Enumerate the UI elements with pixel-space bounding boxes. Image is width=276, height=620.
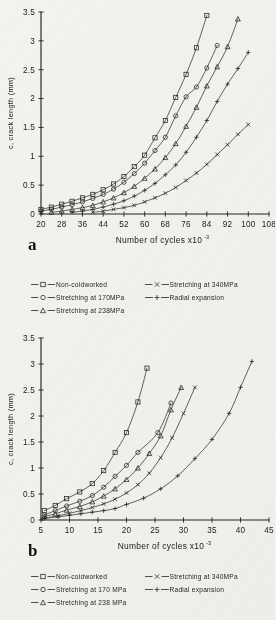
legend-item-stretching-170: Stretching at 170 MPa	[30, 583, 138, 596]
legend-a: Non-coldworked Stretching at 170MPa Stre…	[0, 278, 275, 317]
legend-marker-cross	[144, 279, 170, 290]
series-3	[49, 17, 240, 215]
x-tick-label: 84	[202, 220, 212, 229]
series-4	[70, 50, 251, 214]
y-tick-label: 1.5	[23, 123, 35, 132]
legend-marker-triangle	[30, 305, 56, 316]
legend-item-stretching-238: Stretching at 238MPa	[30, 304, 138, 317]
x-tick-label: 52	[119, 220, 129, 229]
data-point-marker	[236, 132, 240, 136]
x-tick-label: 10	[65, 526, 75, 535]
y-axis-title: c, crack length (mm)	[6, 77, 15, 149]
data-point-marker	[136, 483, 140, 487]
x-tick-label: 108	[262, 220, 275, 229]
data-point-marker	[111, 202, 115, 206]
legend-marker-plus	[144, 584, 170, 595]
legend-b: Non-coldworked Stretching at 170 MPa Str…	[0, 570, 275, 609]
legend-item-stretching-170: Stretching at 170MPa	[30, 291, 138, 304]
data-point-marker	[238, 385, 242, 389]
legend-item-radial-expansion: Radial expansion	[144, 583, 276, 596]
data-point-marker	[174, 186, 178, 190]
x-tick-label: 20	[122, 526, 132, 535]
legend-marker-triangle	[30, 597, 56, 608]
y-tick-label: 1	[30, 152, 35, 161]
data-point-marker	[163, 191, 167, 195]
data-point-marker	[250, 359, 254, 363]
data-point-marker	[184, 179, 188, 183]
panel-letter-a: a	[28, 236, 37, 253]
legend-label: Radial expansion	[170, 586, 225, 593]
y-tick-label: 0	[30, 210, 35, 219]
legend-label: Stretching at 238MPa	[56, 307, 124, 314]
x-tick-label: 44	[98, 220, 108, 229]
data-point-marker	[132, 194, 136, 198]
y-axis-title: c, crack length (mm)	[6, 393, 15, 465]
series-1	[39, 13, 209, 211]
data-point-marker	[159, 487, 163, 491]
svg-text:-3: -3	[204, 234, 209, 240]
series-2	[39, 43, 219, 213]
x-tick-label: 35	[207, 526, 217, 535]
x-tick-label: 68	[161, 220, 171, 229]
x-tick-label: 25	[150, 526, 160, 535]
y-tick-label: 3	[30, 37, 35, 46]
legend-item-stretching-340: Stretching at 340MPa	[144, 278, 276, 291]
legend-marker-cross	[144, 571, 170, 582]
data-point-marker	[159, 456, 163, 460]
data-point-marker	[143, 200, 147, 204]
chart-b-plot: 00.511.522.533.551015202530354045Number …	[0, 326, 275, 556]
y-tick-label: 2	[30, 94, 35, 103]
y-tick-label: 1	[30, 464, 35, 473]
data-point-marker	[122, 199, 126, 203]
legend-marker-square	[30, 279, 56, 290]
data-point-marker	[125, 491, 129, 495]
data-point-marker	[142, 188, 146, 192]
legend-item-stretching-238: Stretching at 238 MPa	[30, 596, 138, 609]
data-point-marker	[147, 471, 151, 475]
y-tick-label: 3.5	[23, 8, 35, 17]
data-point-marker	[141, 496, 145, 500]
data-point-marker	[215, 99, 219, 103]
legend-marker-plus	[144, 292, 170, 303]
y-tick-label: 0.5	[23, 181, 35, 190]
data-point-marker	[102, 502, 106, 506]
y-tick-label: 1.5	[23, 438, 35, 447]
legend-label: Radial expansion	[170, 294, 225, 301]
x-tick-label: 60	[140, 220, 150, 229]
series-5	[91, 123, 250, 215]
data-point-marker	[227, 411, 231, 415]
x-tick-label: 100	[241, 220, 256, 229]
x-tick-label: 28	[57, 220, 67, 229]
series-4	[43, 386, 197, 520]
chart-a-plot: 00.511.522.533.5202836445260687684921001…	[0, 0, 275, 250]
data-point-marker	[153, 196, 157, 200]
data-point-marker	[124, 502, 128, 506]
svg-text:-3: -3	[206, 540, 211, 546]
data-point-marker	[246, 123, 250, 127]
legend-label: Non-coldworked	[56, 281, 107, 288]
data-point-marker	[215, 153, 219, 157]
x-tick-label: 76	[181, 220, 191, 229]
legend-item-radial-expansion: Radial expansion	[144, 291, 276, 304]
data-point-marker	[205, 118, 209, 122]
data-point-marker	[226, 143, 230, 147]
y-tick-label: 3.5	[23, 334, 35, 343]
data-point-marker	[182, 412, 186, 416]
y-tick-label: 0	[30, 516, 35, 525]
svg-text:Number of cycles x10: Number of cycles x10	[118, 541, 205, 551]
data-point-marker	[193, 386, 197, 390]
x-axis-title: Number of cycles x10-3	[118, 540, 211, 551]
data-point-marker	[236, 66, 240, 70]
y-tick-label: 0.5	[23, 490, 35, 499]
x-tick-label: 20	[36, 220, 46, 229]
x-tick-label: 15	[93, 526, 103, 535]
x-axis-title: Number of cycles x10-3	[116, 234, 209, 245]
x-tick-label: 36	[78, 220, 88, 229]
legend-marker-circle	[30, 292, 56, 303]
x-tick-label: 45	[264, 526, 274, 535]
figure-b: 00.511.522.533.551015202530354045Number …	[0, 326, 275, 566]
legend-label: Stretching at 170 MPa	[56, 586, 127, 593]
data-point-marker	[194, 135, 198, 139]
y-tick-label: 2.5	[23, 386, 35, 395]
legend-item-non-coldworked: Non-coldworked	[30, 570, 138, 583]
